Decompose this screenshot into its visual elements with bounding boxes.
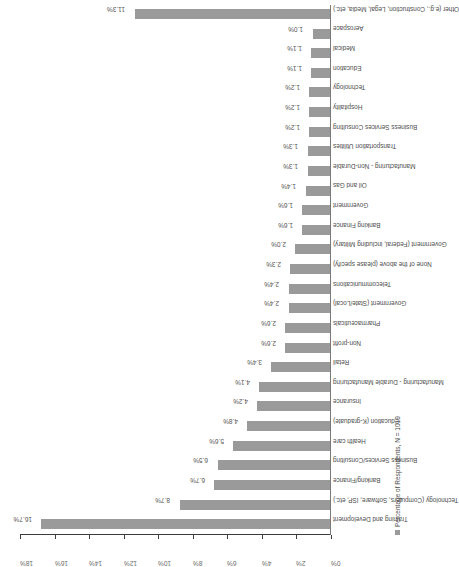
category-label: Technology (Computers, Software, ISP, et… <box>208 496 333 502</box>
axis-tick-mark <box>193 535 194 539</box>
category-label: Banking Finance <box>285 221 333 227</box>
bar-slot[interactable]: 2.6% <box>19 318 330 338</box>
category-label-slot: Aerospace <box>333 24 387 44</box>
category-label-slot: Banking Finance <box>333 220 387 240</box>
axis-tick-label: 10% <box>158 560 171 567</box>
category-label-slot: Business Services Consulting <box>333 122 387 142</box>
category-label-slot: Banking/Finance <box>333 475 387 495</box>
bar-value-label: 1.1% <box>287 44 302 51</box>
axis-tick-label: 4% <box>262 560 271 567</box>
category-label-slot: Medical <box>333 43 387 63</box>
category-label-slot: Non-profit <box>333 338 387 358</box>
category-label: Medical <box>311 44 333 50</box>
category-label: Manufacturing - Non-Durable <box>251 162 333 168</box>
category-label-slot: Manufacturing - Durable Manufacturing <box>333 377 387 397</box>
category-label: Technology <box>301 84 333 90</box>
category-label-text: Banking Finance <box>333 221 381 227</box>
category-label-text: Education <box>333 64 361 70</box>
category-label-text: None of the above (please specify) <box>333 260 432 266</box>
category-label-text: Business Services Consulting <box>333 123 417 129</box>
category-label: Training and Development <box>258 515 333 521</box>
bar-value-label: 1.4% <box>281 182 296 189</box>
category-label-text: Retail <box>333 358 349 364</box>
axis-tick-label: 18% <box>20 560 33 567</box>
category-label-text: Other (e.g., Construction, Legal, Media,… <box>333 5 459 11</box>
bar-slot[interactable]: 3.4% <box>19 357 330 377</box>
category-label-text: Government <box>333 201 368 207</box>
category-label-slot: Technology (Computers, Software, ISP, et… <box>333 495 387 515</box>
bar-value-label: 1.1% <box>287 64 302 71</box>
category-label-slot: None of the above (please specify) <box>333 259 387 279</box>
category-label-slot: Education (K-graduate) <box>333 416 387 436</box>
bar-slot[interactable]: 6.7% <box>19 475 330 495</box>
category-label: Retail <box>317 358 333 364</box>
category-label-slot: Pharmaceuticals <box>333 318 387 338</box>
category-label-slot: Business Services/Consulting <box>333 456 387 476</box>
bar-slot[interactable]: 2.6% <box>19 338 330 358</box>
category-label-text: Manufacturing - Non-Durable <box>333 162 415 168</box>
bar-slot[interactable]: 5.6% <box>19 436 330 456</box>
category-label-text: Transportation Utilities <box>333 142 396 148</box>
axis-tick-mark <box>89 535 90 539</box>
category-label: Business Services/Consulting <box>249 457 333 463</box>
axis-tick-mark <box>331 535 332 539</box>
bar-slot[interactable]: 1.4% <box>19 181 330 201</box>
category-label-slot: Telecommunications <box>333 279 387 299</box>
bar-value-label: 5.6% <box>209 437 224 444</box>
bar-value-label: 8.7% <box>155 496 170 503</box>
category-label-slot: Other (e.g., Construction, Legal, Media,… <box>333 4 387 24</box>
bar-slot[interactable]: 1.6% <box>19 200 330 220</box>
bar-value-label: 1.2% <box>285 103 300 110</box>
category-label: Health care <box>300 437 333 443</box>
category-label: Insurance <box>305 398 333 404</box>
category-label-slot: Manufacturing - Non-Durable <box>333 161 387 181</box>
axis-tick-mark <box>55 535 56 539</box>
axis-tick-label: 14% <box>89 560 102 567</box>
bar-slot[interactable]: 1.6% <box>19 220 330 240</box>
axis-tick-label: 0% <box>331 560 340 567</box>
category-label-text: Government (Federal, including Military) <box>333 241 447 247</box>
category-label-text: Medical <box>333 44 355 50</box>
category-label-slot: Technology <box>333 83 387 103</box>
axis-tick-mark <box>227 535 228 539</box>
bar-slot[interactable]: 1.1% <box>19 63 330 83</box>
category-label: Oil and Gas <box>299 182 333 188</box>
axis-tick-label: 16% <box>55 560 68 567</box>
category-label: Hospitality <box>304 103 333 109</box>
axis-tick-label: 8% <box>193 560 202 567</box>
bar-slot[interactable]: 4.2% <box>19 397 330 417</box>
category-label: None of the above (please specify) <box>234 260 333 266</box>
axis-tick-mark <box>296 535 297 539</box>
category-label-slot: Education <box>333 63 387 83</box>
bar-slot[interactable]: 1.2% <box>19 83 330 103</box>
category-label-text: Telecommunications <box>333 280 391 286</box>
axis-tick-mark <box>262 535 263 539</box>
category-label-text: Banking/Finance <box>333 476 381 482</box>
category-label-text: Health care <box>333 437 366 443</box>
category-label-slot: Government (State/Local) <box>333 298 387 318</box>
bar-value-label: 16.7% <box>14 515 32 522</box>
bar-value-label: 2.6% <box>261 339 276 346</box>
category-label: Manufacturing - Durable Manufacturing <box>222 378 333 384</box>
category-label-slot: Training and Development <box>333 514 387 534</box>
category-label: Business Services Consulting <box>249 123 333 129</box>
bar-value-label: 6.5% <box>193 456 208 463</box>
bar-value-label: 1.6% <box>278 201 293 208</box>
bar-slot[interactable]: 1.2% <box>19 102 330 122</box>
category-label-text: Education (K-graduate) <box>333 417 399 423</box>
category-label-slot: Hospitality <box>333 102 387 122</box>
category-label: Pharmaceuticals <box>286 319 333 325</box>
axis-tick-label: 6% <box>227 560 236 567</box>
category-label-text: Oil and Gas <box>333 182 367 188</box>
category-label-text: Insurance <box>333 398 361 404</box>
bar-value-label: 2.6% <box>261 319 276 326</box>
axis-tick-label: 12% <box>124 560 137 567</box>
bar-slot[interactable]: 1.1% <box>19 43 330 63</box>
bar-slot[interactable]: 1.0% <box>19 24 330 44</box>
category-label: Banking/Finance <box>285 476 333 482</box>
bar-value-label: 3.4% <box>247 358 262 365</box>
category-label-text: Business Services/Consulting <box>333 457 417 463</box>
category-label: Education <box>305 64 333 70</box>
category-label: Government <box>298 201 333 207</box>
value-axis-line <box>20 534 331 535</box>
